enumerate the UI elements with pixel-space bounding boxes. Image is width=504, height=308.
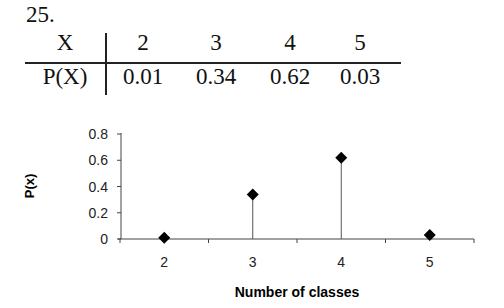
diamond-marker <box>158 232 170 244</box>
y-tick-label: 0 <box>100 231 108 247</box>
y-tick-label: 0.8 <box>89 126 109 142</box>
y-ticks: 00.20.40.60.8 <box>89 126 121 247</box>
x-ticks: 2345 <box>120 239 474 270</box>
x-tick-label: 2 <box>160 254 168 270</box>
diamond-marker <box>335 152 347 164</box>
y-tick-label: 0.6 <box>89 152 109 168</box>
stem-chart: 00.20.40.60.8 2345 P(x) Number of classe… <box>0 0 504 308</box>
y-tick-label: 0.4 <box>89 179 109 195</box>
data-series <box>158 152 436 244</box>
diamond-marker <box>247 188 259 200</box>
x-tick-label: 3 <box>249 254 257 270</box>
x-axis-label: Number of classes <box>235 284 360 300</box>
x-tick-label: 4 <box>337 254 345 270</box>
y-axis-label: P(x) <box>22 174 37 199</box>
y-tick-label: 0.2 <box>89 205 109 221</box>
x-tick-label: 5 <box>426 254 434 270</box>
